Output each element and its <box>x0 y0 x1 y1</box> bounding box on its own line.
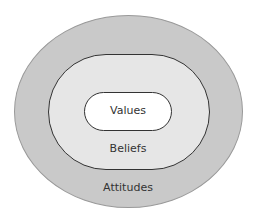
values-label: Values <box>78 104 178 117</box>
beliefs-label: Beliefs <box>78 142 178 155</box>
attitudes-label: Attitudes <box>78 181 178 194</box>
